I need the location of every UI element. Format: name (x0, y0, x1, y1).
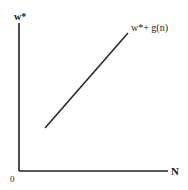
curve-label: w*+ g(n) (131, 22, 168, 34)
diagram-canvas: w* w*+ g(n) 0 N (0, 0, 188, 190)
y-axis-label: w* (14, 11, 26, 22)
curve-line (45, 33, 128, 128)
x-axis-label: N (171, 165, 179, 177)
origin-label: 0 (10, 174, 15, 184)
